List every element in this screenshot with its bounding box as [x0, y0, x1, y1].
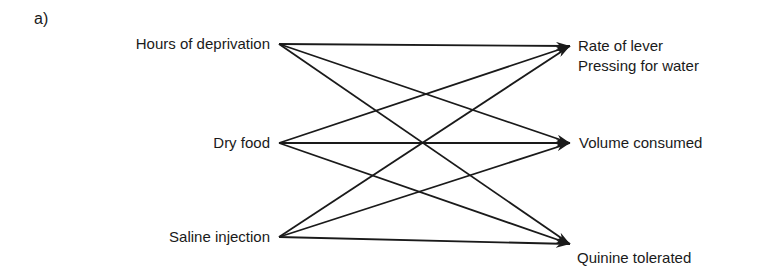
- arrow-saline-to-quinine: [279, 237, 570, 244]
- arrow-saline-to-volume: [279, 143, 570, 237]
- arrow-hours-to-rate: [279, 44, 570, 46]
- arrow-dry-to-quinine: [279, 143, 570, 244]
- edge-layer: [0, 0, 772, 273]
- causal-arrows: [279, 44, 570, 244]
